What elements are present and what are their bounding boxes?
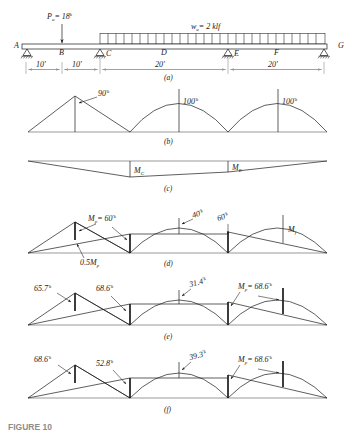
support-C (94, 49, 106, 58)
svg-text:68.6'k: 68.6'k (34, 355, 52, 364)
distributed-load-label: wu= 2 klf (191, 22, 222, 32)
svg-text:100'k: 100'k (183, 97, 199, 106)
panel-d-label-half-Mp: 0.5Mp (77, 244, 100, 268)
node-label-A: A (13, 41, 19, 50)
panel-b-diagram: 90'k 100'k 100'k (b) (28, 89, 327, 146)
svg-text:40'k: 40'k (191, 208, 205, 220)
panel-e-label-68-6: 68.6'k (96, 284, 126, 311)
panel-caption-d: (d) (164, 259, 173, 268)
panel-d-label-40: 40'k (182, 208, 205, 224)
panel-caption-e: (e) (164, 332, 173, 341)
node-label-B: B (59, 48, 64, 57)
point-load-label: Pu= 18k (46, 12, 73, 22)
panel-b-label-100-left: 100'k (183, 97, 199, 106)
svg-text:68.6'k: 68.6'k (96, 284, 114, 293)
panel-caption-c: (c) (164, 184, 173, 193)
panel-d-diagram: Mp= 60'k 40'k 60'k Mf 0.5Mp (d) (28, 208, 327, 268)
node-label-G: G (338, 41, 344, 50)
panel-b-label-90: 90'k (79, 89, 110, 103)
dimension-label-4: 20' (268, 60, 278, 69)
panel-f-diagram: 68.6'k 52.8'k 39.3'k Mp= 68.6'k (f) (28, 349, 327, 414)
svg-text:Mp= 68.6'k: Mp= 68.6'k (237, 355, 273, 365)
panel-a-beam: Pu= 18k wu= 2 klf (13, 12, 344, 82)
svg-text:60'k: 60'k (216, 211, 230, 223)
figure-caption: FIGURE 10 (8, 422, 52, 431)
support-E (222, 49, 234, 58)
svg-text:Mp= 68.6'k: Mp= 68.6'k (237, 282, 273, 292)
panel-b-label-100-right: 100'k (282, 97, 298, 106)
node-label-E: E (233, 49, 239, 58)
panel-e-label-31-4: 31.4'k (182, 276, 208, 296)
dimension-label-3: 20' (155, 60, 165, 69)
panel-d-label-Mf: Mf (287, 225, 297, 235)
beam-member (22, 44, 327, 49)
svg-text:52.8'k: 52.8'k (96, 359, 114, 368)
svg-text:100'k: 100'k (282, 97, 298, 106)
svg-text:65.7'k: 65.7'k (34, 284, 52, 293)
svg-text:Mp= 60'k: Mp= 60'k (87, 214, 117, 224)
point-load-value: = 18 (54, 12, 69, 21)
panel-c-diagram: MC ME (c) (28, 161, 327, 193)
svg-text:0.5Mp: 0.5Mp (80, 258, 100, 268)
distributed-load-block (100, 34, 325, 45)
panel-e-diagram: 65.7'k 68.6'k 31.4'k Mp= 68.6'k (e) (28, 276, 327, 341)
svg-text:39.3'k: 39.3'k (187, 349, 208, 363)
figure-container: Pu= 18k wu= 2 klf (0, 0, 356, 431)
node-label-F: F (273, 48, 279, 57)
dist-load-value: = 2 klf (199, 22, 222, 31)
panel-e-label-Mp: Mp= 68.6'k (231, 282, 279, 306)
panel-caption-b: (b) (164, 137, 173, 146)
panel-f-label-Mp: Mp= 68.6'k (231, 355, 279, 379)
node-label-D: D (160, 48, 167, 57)
panel-f-label-68-6: 68.6'k (34, 355, 71, 374)
node-label-C: C (106, 49, 112, 58)
panel-f-label-39-3: 39.3'k (182, 349, 208, 370)
panel-caption-f: (f) (164, 405, 172, 414)
dimension-label-1: 10' (36, 60, 46, 69)
panel-d-label-60: 60'k (216, 211, 230, 234)
panel-c-label-MC: MC (133, 166, 145, 176)
support-A (21, 49, 33, 58)
point-load-unit: k (70, 12, 73, 17)
panel-c-label-ME: ME (231, 163, 242, 173)
support-G (318, 49, 330, 58)
svg-text:31.4'k: 31.4'k (187, 276, 208, 290)
dimension-line-group: 10' 10' 20' 20' (26, 58, 324, 74)
svg-text:wu= 2 klf: wu= 2 klf (191, 22, 222, 32)
svg-text:90'k: 90'k (98, 89, 110, 98)
svg-text:Pu= 18k: Pu= 18k (46, 12, 73, 22)
panel-caption-a: (a) (164, 73, 173, 82)
dimension-label-2: 10' (72, 60, 82, 69)
